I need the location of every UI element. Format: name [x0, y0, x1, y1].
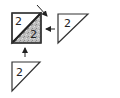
bottom-triangle-label: 2 [16, 66, 23, 79]
right-triangle: 2 [58, 14, 88, 43]
right-triangle-label: 2 [64, 17, 71, 30]
bottom-triangle: 2 [12, 62, 40, 91]
main-block: 2 2 [12, 13, 41, 43]
main-bottom-label: 2 [30, 28, 37, 41]
main-top-label: 2 [15, 15, 22, 28]
diagram-canvas: 2 2 2 2 [0, 0, 120, 98]
